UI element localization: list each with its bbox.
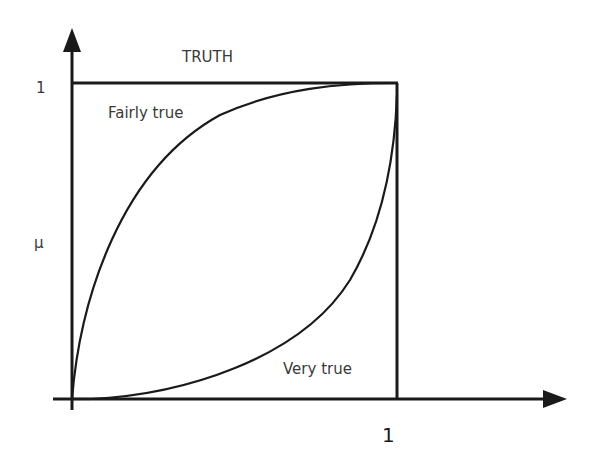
- y-axis-label: μ: [34, 234, 44, 252]
- title-label: TRUTH: [181, 48, 233, 66]
- very-true-label: Very true: [283, 360, 352, 378]
- fairly-true-curve: [72, 83, 397, 399]
- truth-diagram: TRUTH 1 μ Fairly true Very true 1: [0, 0, 598, 458]
- y-axis-arrow-icon: [63, 28, 81, 52]
- very-true-curve: [90, 95, 397, 399]
- x-axis-arrow-icon: [543, 390, 567, 408]
- x-tick-label: 1: [382, 423, 395, 447]
- y-tick-label: 1: [36, 79, 46, 97]
- fairly-true-label: Fairly true: [108, 104, 183, 122]
